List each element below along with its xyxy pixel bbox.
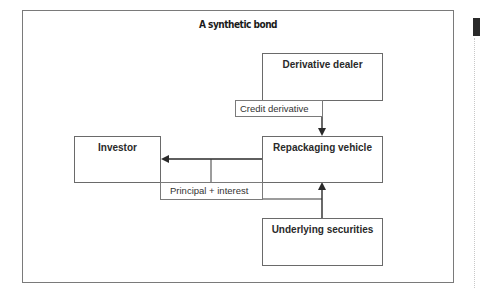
page-side-tab bbox=[473, 18, 480, 36]
investor-label: Investor bbox=[75, 142, 160, 153]
box-underlying-securities: Underlying securities bbox=[262, 218, 383, 266]
repackaging-vehicle-label: Repackaging vehicle bbox=[263, 142, 382, 153]
box-investor: Investor bbox=[74, 136, 161, 183]
box-repackaging-vehicle: Repackaging vehicle bbox=[262, 136, 383, 183]
label-principal-interest: Principal + interest bbox=[160, 182, 263, 200]
page-edge-dotted-line bbox=[474, 38, 475, 288]
underlying-securities-label: Underlying securities bbox=[263, 224, 382, 235]
label-credit-derivative: Credit derivative bbox=[235, 100, 323, 117]
derivative-dealer-label: Derivative dealer bbox=[263, 59, 382, 70]
box-derivative-dealer: Derivative dealer bbox=[262, 53, 383, 101]
connector-lines bbox=[0, 0, 480, 294]
